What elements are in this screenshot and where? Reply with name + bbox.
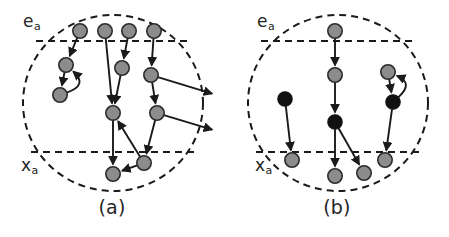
node-gray-a5 <box>59 58 73 72</box>
edge-b5-b9 <box>339 128 360 164</box>
node-gray-b8 <box>328 169 342 183</box>
edge-a10-a11 <box>146 120 155 154</box>
panel-b-top-label: ea <box>257 11 274 31</box>
panel-b-top-label-text: e <box>257 11 267 31</box>
edge-b4-b7 <box>286 106 291 150</box>
node-gray-a3 <box>122 24 136 38</box>
node-black-b4 <box>278 92 292 106</box>
node-gray-a4 <box>147 24 161 38</box>
edge-a2-a9 <box>106 38 112 103</box>
node-gray-a11 <box>137 156 151 170</box>
panel-a-bottom-label-sub: a <box>32 164 39 177</box>
figure-root: ea xa (a) ea xa (b) <box>0 0 449 237</box>
edge-a11-a12 <box>122 165 137 170</box>
node-gray-a12 <box>106 167 120 181</box>
panel-b-bottom-label-sub: a <box>266 164 273 177</box>
panel-b-bottom-label: xa <box>255 155 272 175</box>
panel-a: ea xa (a) <box>0 0 224 237</box>
nodes-b <box>278 24 400 183</box>
node-gray-b9 <box>357 166 371 180</box>
node-gray-a10 <box>150 106 164 120</box>
edge-curved-a8-a5 <box>67 71 80 92</box>
panel-a-caption: (a) <box>0 196 224 218</box>
panel-a-top-label: ea <box>23 11 40 31</box>
node-gray-b1 <box>328 24 342 38</box>
panel-b-top-label-sub: a <box>268 20 275 33</box>
edge-exit-a10-exit2 <box>164 115 212 130</box>
node-gray-a9 <box>106 106 120 120</box>
node-gray-a2 <box>98 24 112 38</box>
node-gray-b7 <box>285 153 299 167</box>
panel-b-caption: (b) <box>225 196 449 218</box>
node-gray-b2 <box>328 68 342 82</box>
edge-b3-b6 <box>389 79 391 92</box>
panel-a-top-label-text: e <box>23 11 33 31</box>
panel-b-bottom-label-text: x <box>255 155 265 175</box>
node-black-b5 <box>328 115 342 129</box>
edge-a6-a9 <box>115 75 121 103</box>
node-gray-a7 <box>144 68 158 82</box>
node-gray-a6 <box>115 61 129 75</box>
nodes-a <box>53 24 164 181</box>
node-gray-a8 <box>53 88 67 102</box>
edge-exit-a7-exit1 <box>158 77 212 94</box>
edge-a5-a8 <box>62 72 65 85</box>
edge-a7-a10 <box>152 82 155 103</box>
panel-a-bottom-label: xa <box>21 155 38 175</box>
edge-b6-b10 <box>386 109 392 150</box>
panel-b: ea xa (b) <box>225 0 449 237</box>
node-gray-b3 <box>381 65 395 79</box>
panel-a-bottom-label-text: x <box>21 155 31 175</box>
node-black-b6 <box>386 95 400 109</box>
node-gray-a1 <box>73 24 87 38</box>
edge-a4-a7 <box>152 38 154 65</box>
edge-curved-b6-b3 <box>397 76 406 97</box>
node-gray-b10 <box>378 153 392 167</box>
panel-a-top-label-sub: a <box>34 20 41 33</box>
